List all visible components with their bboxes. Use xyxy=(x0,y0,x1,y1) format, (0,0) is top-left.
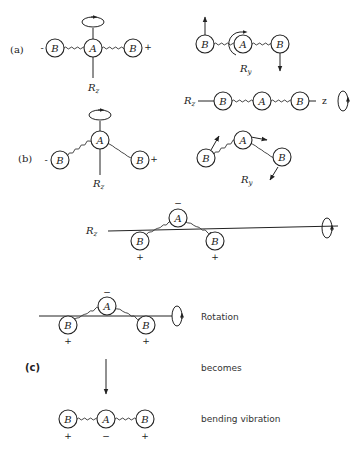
panel-a-rz-axis: Rz B A B z xyxy=(183,91,348,111)
atom-label: B xyxy=(135,236,143,247)
panel-b-ry-bent: B A B Ry xyxy=(197,131,291,187)
atom-label: A xyxy=(238,135,246,146)
bond-spring xyxy=(115,308,139,320)
rotation-arrow-icon xyxy=(89,110,111,120)
sign-plus: + xyxy=(142,336,150,346)
atom-label: B xyxy=(55,155,63,166)
rz-label: Rz xyxy=(183,95,196,108)
sign-minus: − xyxy=(103,287,111,297)
sign-plus: + xyxy=(150,154,158,164)
atom-label: A xyxy=(238,39,246,50)
atom-label: B xyxy=(63,320,71,331)
atom-label: B xyxy=(63,414,71,425)
part-label-b: (b) xyxy=(18,153,32,164)
sign-plus: + xyxy=(211,252,219,262)
rotation-arrow-icon xyxy=(82,17,104,27)
bending-vibration-annotation: bending vibration xyxy=(201,414,280,424)
rz-label: Rz xyxy=(87,82,100,95)
panel-b-rx-bent: Rz − A B B + + xyxy=(85,198,338,262)
sign-minus: - xyxy=(44,155,47,165)
atom-label: A xyxy=(102,301,110,312)
displacement-arrow xyxy=(211,136,219,150)
panel-a-ry-linear: B A B Ry xyxy=(196,17,289,76)
rotation-axis xyxy=(108,226,338,231)
rz-label: Rz xyxy=(85,225,98,238)
atom-label: B xyxy=(141,320,149,331)
bond-spring xyxy=(108,143,132,158)
atom-label: A xyxy=(257,96,265,107)
atom-label: B xyxy=(210,236,218,247)
atom-label: A xyxy=(173,213,181,224)
atom-label: A xyxy=(95,135,103,146)
atom-label: B xyxy=(140,414,148,425)
atom-label: B xyxy=(295,96,303,107)
atom-label: B xyxy=(200,39,208,50)
ry-label: Ry xyxy=(240,174,254,187)
rotation-annotation: Rotation xyxy=(201,312,239,322)
panel-b-rz-bent: (b) - B A B + Rz xyxy=(18,110,158,191)
rotation-arrow-icon xyxy=(322,218,332,238)
z-axis-label: z xyxy=(322,96,327,106)
sign-plus: + xyxy=(141,431,149,441)
sign-plus: + xyxy=(144,42,152,52)
sign-plus: + xyxy=(136,252,144,262)
rz-label: Rz xyxy=(92,178,105,191)
atom-label: B xyxy=(218,96,226,107)
bond-spring xyxy=(74,306,101,320)
sign-plus: + xyxy=(64,336,72,346)
bond-spring xyxy=(251,143,275,158)
sign-minus: − xyxy=(174,198,182,208)
becomes-annotation: becomes xyxy=(201,363,242,373)
part-label-c: (c) xyxy=(25,362,40,373)
atom-label: A xyxy=(101,414,109,425)
rotation-arrow-icon xyxy=(172,306,182,326)
atom-label: B xyxy=(50,43,58,54)
atom-label: B xyxy=(128,43,136,54)
molecular-motion-diagram: (a) - B A B + Rz B A B Ry Rz xyxy=(0,0,364,453)
displacement-arrow xyxy=(251,137,267,140)
panel-a-rz-linear: (a) - B A B + Rz xyxy=(10,17,152,95)
sign-minus: − xyxy=(102,431,110,441)
part-label-a: (a) xyxy=(10,44,24,55)
atom-label: B xyxy=(275,39,283,50)
panel-c-rotation: − A B B + + Rotation (c) becomes B A B +… xyxy=(25,287,280,441)
ry-label: Ry xyxy=(239,63,253,76)
sign-plus: + xyxy=(64,431,72,441)
bond-spring xyxy=(68,140,92,155)
atom-label: B xyxy=(277,152,285,163)
rotation-arrow-icon xyxy=(338,91,348,111)
bond-spring xyxy=(102,47,126,49)
displacement-arrow xyxy=(270,167,278,180)
sign-minus: - xyxy=(40,43,43,53)
atom-label: B xyxy=(135,155,143,166)
atom-label: B xyxy=(201,153,209,164)
bond-spring xyxy=(186,222,212,234)
atom-label: A xyxy=(88,43,96,54)
